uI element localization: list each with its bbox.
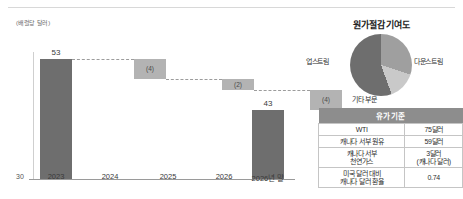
y-axis-unit-label: (배럴당 달러) [16,18,50,27]
y-axis-tick-mark [29,179,34,180]
table-cell-name-gas-line2: 천연가스 [350,158,373,165]
table-row: 캐나다 서부 원유 59달러 [319,136,463,148]
waterfall-bar-2023 [40,59,72,179]
table-cell-value-wcs: 59달러 [405,136,463,148]
table-cell-value-gas-amount: 3달러 [426,150,441,157]
waterfall-bar-label-2026-end: 43 [252,99,284,108]
table-cell-name-fx-line2: 캐나다 달러 환율 [340,178,383,185]
pie-label-other: 기타 부문 [352,94,376,104]
table-cell-name-wcs: 캐나다 서부 원유 [319,136,405,148]
table-cell-name-wti: WTI [319,124,405,136]
table-cell-value-gas: 3달러 (캐나다 달러) [405,148,463,168]
x-axis-label-2026: 2026 [208,172,240,181]
pie-chart [350,34,412,96]
table-cell-value-wti: 75달러 [405,124,463,136]
table-row: 캐나다 서부 천연가스 3달러 (캐나다 달러) [319,148,463,168]
top-divider [8,7,455,8]
x-axis-label-2023: 2023 [40,172,72,181]
y-axis-line [33,52,34,180]
x-axis-label-2026-end: 2026년 말 [246,172,290,183]
pie-label-downstream: 다운스트림 [414,56,443,66]
waterfall-bar-2026-end [252,110,284,179]
table-cell-name-gas: 캐나다 서부 천연가스 [319,148,405,168]
table-cell-name-fx-line1: 미국 달러 대비 [343,170,381,177]
table-cell-value-gas-currency: (캐나다 달러) [417,158,451,165]
waterfall-bar-label-2024: (4) [134,65,166,72]
x-axis-label-2025: 2025 [152,172,184,181]
table-header: 유가 기준 [319,108,463,124]
waterfall-connector-2 [166,79,222,80]
table-row: 미국 달러 대비 캐나다 달러 환율 0.74 [319,168,463,188]
pie-chart-title: 원가절감 기여도 [300,18,463,31]
table-row: WTI 75달러 [319,124,463,136]
y-axis-tick-30: 30 [16,173,24,180]
waterfall-connector-1 [72,59,134,60]
table-cell-name-gas-line1: 캐나다 서부 [347,150,377,157]
oil-price-table: 유가 기준 WTI 75달러 캐나다 서부 원유 59달러 캐나다 서부 천연가… [318,108,463,188]
table-cell-name-fx: 미국 달러 대비 캐나다 달러 환율 [319,168,405,188]
x-axis-label-2024: 2024 [94,172,126,181]
waterfall-bar-label-2025: (2) [222,81,254,88]
right-panel: 원가절감 기여도 업스트림 다운스트림 기타 부문 유가 기준 WTI 75달러… [300,12,463,197]
chart-figure: (배럴당 달러) 30 53 (4) (2) (4) 43 2023 2024 [0,0,463,199]
pie-label-upstream: 업스트림 [306,56,329,66]
table-cell-value-fx: 0.74 [405,168,463,188]
waterfall-bar-label-2023: 53 [40,48,72,57]
